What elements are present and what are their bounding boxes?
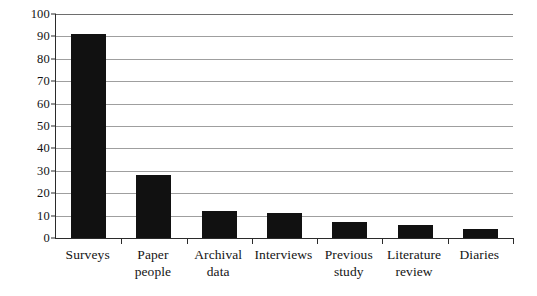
bar [267,213,302,238]
x-tick-mark [382,238,383,244]
x-axis-label: Archival data [186,246,251,280]
plot-area: 0102030405060708090100 [55,14,513,239]
bar [463,229,498,238]
y-tick-label-50: 50 [37,120,50,133]
y-tick-label-20: 20 [37,187,50,200]
y-tick-label-60: 60 [37,97,50,110]
bar [202,211,237,238]
x-tick-mark [252,238,253,244]
bar-chart: 0102030405060708090100 SurveysPaper peop… [0,0,537,296]
x-axis-label: Literature review [381,246,446,280]
bar [332,222,367,238]
bar-series [56,14,513,238]
x-tick-mark [187,238,188,244]
x-axis-label: Surveys [55,246,120,263]
x-axis-labels: SurveysPaper peopleArchival dataIntervie… [55,246,512,292]
bar [71,34,106,238]
x-axis-label: Paper people [120,246,185,280]
x-axis-label: Interviews [251,246,316,263]
x-axis-label: Previous study [316,246,381,280]
y-tick-label-90: 90 [37,30,50,43]
x-tick-mark [448,238,449,244]
bar [136,175,171,238]
x-axis-label: Diaries [447,246,512,263]
y-tick-label-70: 70 [37,75,50,88]
y-tick-label-30: 30 [37,165,50,178]
bar [398,225,433,238]
x-tick-mark-end [513,238,514,244]
y-tick-label-0: 0 [44,232,50,245]
y-tick-label-40: 40 [37,142,50,155]
y-tick-label-10: 10 [37,209,50,222]
x-tick-mark [317,238,318,244]
y-tick-label-80: 80 [37,53,50,66]
y-tick-label-100: 100 [31,8,50,21]
x-tick-mark [121,238,122,244]
